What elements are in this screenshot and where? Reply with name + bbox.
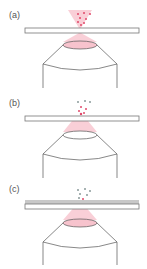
objective-body [43, 135, 117, 178]
glass-slide [25, 204, 139, 209]
objective-lens [63, 41, 97, 49]
panel-c: (c) [0, 178, 147, 269]
particles-gray [77, 188, 91, 199]
particles-trapped [78, 106, 87, 115]
microscope-diagram [0, 0, 147, 88]
glass-slide [25, 28, 139, 33]
objective-body [43, 45, 117, 88]
glass-slide [25, 116, 139, 121]
objective-lens [63, 131, 97, 139]
panel-b: (b) [0, 88, 147, 178]
panel-a: (a) [0, 0, 147, 88]
objective-body [43, 223, 117, 265]
particle-trapped [82, 198, 84, 200]
objective-rim [43, 154, 117, 160]
microscope-diagram [0, 88, 147, 178]
microscope-diagram [0, 178, 147, 269]
particles-gray [77, 100, 91, 103]
objective-lens [63, 219, 97, 227]
objective-rim [43, 64, 117, 70]
cover-layer [25, 200, 139, 204]
objective-rim [43, 242, 117, 248]
